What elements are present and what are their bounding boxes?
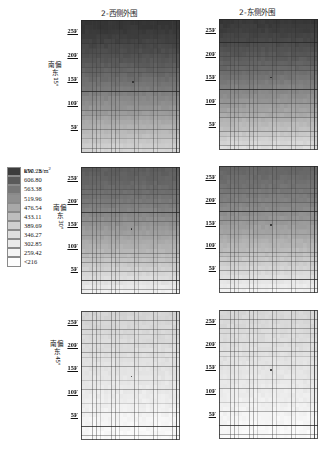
legend-color-swatch [7,176,21,185]
y-axis-tick-label: 25F [195,173,216,180]
legend-value-label: 302.85 [24,240,42,248]
panel-marker-point [131,376,133,378]
y-axis-tick-label: 5F [57,411,78,418]
heatmap-panel [81,167,180,294]
legend-color-swatch [7,185,21,194]
legend-color-swatch [7,221,21,230]
legend-color-swatch [7,248,21,257]
y-axis-tick-label: 20F [195,340,216,347]
legend-value-label: 563.38 [24,185,42,193]
panel-marker-point [132,81,134,83]
y-axis-tick-label: 25F [195,26,216,33]
y-axis-tick-group: 25F20F15F10F5F [195,310,216,439]
y-axis-tick-label: 25F [57,318,78,325]
heatmap-canvas [81,167,180,294]
heatmap-canvas [81,20,180,153]
legend-color-swatch [7,212,21,221]
legend-color-swatch [7,167,21,176]
y-axis-tick-label: 5F [195,120,216,127]
heatmap-canvas [219,166,318,293]
legend-color-swatch [7,257,21,266]
legend-value-label: 606.80 [24,176,42,184]
legend-value-label: 476.54 [24,204,42,212]
heatmap-panel [81,311,180,440]
y-axis-tick-label: 20F [195,196,216,203]
y-axis-tick-group: 25F20F15F10F5F [57,167,78,294]
y-axis-tick-label: 20F [57,197,78,204]
y-axis-tick-label: 5F [195,410,216,417]
y-axis-tick-label: 20F [57,51,78,58]
legend-value-label: 433.11 [24,213,41,221]
legend-value-label: 389.69 [24,222,42,230]
y-axis-tick-label: 10F [195,241,216,248]
y-axis-tick-label: 10F [57,99,78,106]
y-axis-tick-label: 20F [195,50,216,57]
heatmap-canvas [219,19,318,150]
y-axis-tick-label: 10F [195,387,216,394]
y-axis-tick-label: 10F [57,242,78,249]
heatmap-panel [219,19,318,150]
legend-color-swatch [7,230,21,239]
y-axis-tick-label: 25F [57,27,78,34]
y-axis-tick-group: 25F20F15F10F5F [195,19,216,150]
y-axis-tick-label: 5F [195,264,216,271]
y-axis-tick-group: 25F20F15F10F5F [195,166,216,293]
y-axis-tick-label: 15F [195,73,216,80]
y-axis-tick-label: 15F [57,75,78,82]
panel-marker-point [270,369,272,371]
y-axis-tick-label: 15F [57,220,78,227]
heatmap-panel [219,166,318,293]
heatmap-panel [81,20,180,153]
column-title-east: 2-东侧外围 [239,6,276,17]
y-axis-tick-label: 10F [195,97,216,104]
y-axis-tick-label: 15F [195,363,216,370]
legend-color-swatch [7,203,21,212]
y-axis-tick-group: 25F20F15F10F5F [57,20,78,153]
legend-color-swatch [7,239,21,248]
legend-value-label: 519.96 [24,195,42,203]
y-axis-tick-label: 20F [57,341,78,348]
y-axis-tick-group: 25F20F15F10F5F [57,311,78,440]
y-axis-tick-label: 25F [195,317,216,324]
legend-value-label: <216 [24,258,37,266]
legend-value-label: 346.27 [24,231,42,239]
legend-color-swatch [7,194,21,203]
column-title-west: 2-西侧外围 [101,7,138,18]
panel-marker-point [131,228,133,230]
legend-value-label: 650.23 [24,167,42,175]
y-axis-tick-label: 5F [57,265,78,272]
legend-value-label: 259.42 [24,249,42,257]
figure-root: 2-西侧外围 2-东侧外围 南偏东 15° 南偏东 30° 南偏东 45° kW… [0,0,325,450]
y-axis-tick-label: 25F [57,174,78,181]
heatmap-panel [219,310,318,439]
y-axis-tick-label: 10F [57,388,78,395]
heatmap-canvas [219,310,318,439]
y-axis-tick-label: 5F [57,123,78,130]
y-axis-tick-label: 15F [57,364,78,371]
y-axis-tick-label: 15F [195,219,216,226]
